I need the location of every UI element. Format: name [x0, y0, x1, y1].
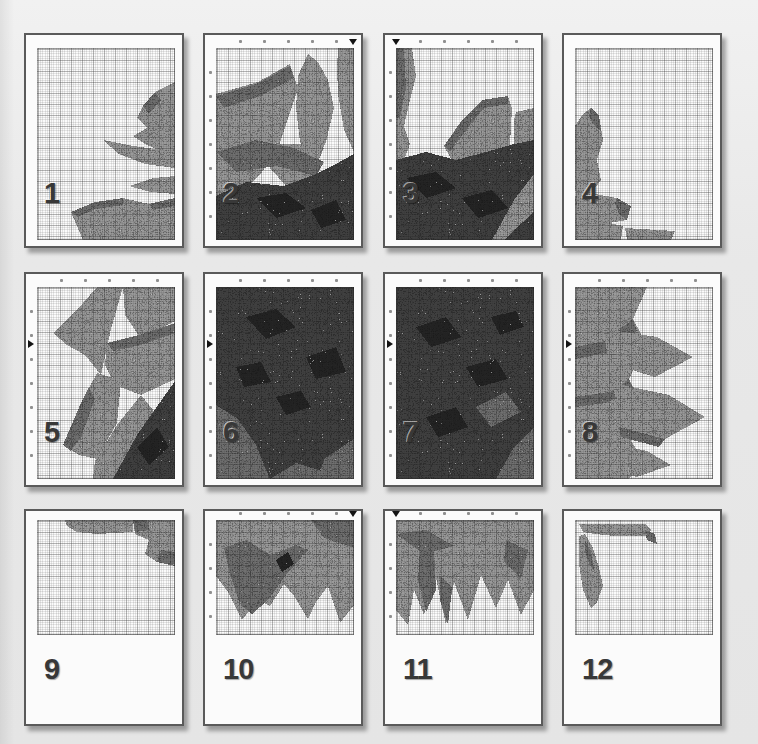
stitch-pattern-svg: [216, 287, 354, 479]
ruler-tick: [263, 512, 266, 515]
ruler-tick: [209, 71, 212, 74]
ruler-tick: [156, 279, 159, 282]
petal-dark-shape: [645, 530, 657, 544]
ruler-tick: [287, 279, 290, 282]
ruler-tick: [419, 40, 422, 43]
ruler-tick: [263, 40, 266, 43]
pattern-page-2: 2: [203, 33, 363, 248]
center-arrow-icon: [349, 511, 357, 517]
pattern-page-1: 1: [24, 33, 184, 248]
ruler-tick: [389, 406, 392, 409]
stitch-chart-area: [575, 287, 713, 479]
page-number: 9: [44, 655, 59, 684]
ruler-tick: [568, 406, 571, 409]
ruler-tick: [419, 279, 422, 282]
ruler-tick: [568, 430, 571, 433]
stitch-chart-area: [396, 48, 534, 240]
ruler-tick: [30, 358, 33, 361]
ruler-tick: [209, 615, 212, 618]
pattern-page-6: 6: [203, 272, 363, 487]
ruler-tick: [30, 406, 33, 409]
stitch-chart-area: [216, 48, 354, 240]
center-arrow-icon: [392, 511, 400, 517]
ruler-tick: [209, 215, 212, 218]
stitch-chart-area: [216, 520, 354, 635]
ruler-tick: [132, 279, 135, 282]
ruler-tick: [443, 279, 446, 282]
ruler-tick: [389, 167, 392, 170]
pattern-page-5: 5: [24, 272, 184, 487]
page-number: 6: [223, 418, 238, 447]
ruler-tick: [209, 543, 212, 546]
ruler-tick: [389, 143, 392, 146]
ruler-tick: [389, 310, 392, 313]
ruler-tick: [209, 143, 212, 146]
ruler-tick: [209, 382, 212, 385]
ruler-tick: [491, 279, 494, 282]
ruler-tick: [30, 334, 33, 337]
ruler-tick: [389, 334, 392, 337]
ruler-tick: [209, 310, 212, 313]
ruler-tick: [598, 279, 601, 282]
page-number: 11: [403, 655, 432, 684]
ruler-tick: [335, 512, 338, 515]
ruler-tick: [239, 512, 242, 515]
ruler-tick: [694, 279, 697, 282]
ruler-tick: [622, 279, 625, 282]
ruler-tick: [515, 40, 518, 43]
petal-shape: [129, 176, 175, 194]
ruler-tick: [389, 358, 392, 361]
ruler-tick: [515, 512, 518, 515]
ruler-tick: [209, 358, 212, 361]
pattern-page-9: 9: [24, 509, 184, 726]
stitch-pattern-svg: [396, 48, 534, 240]
ruler-tick: [419, 512, 422, 515]
center-arrow-icon: [207, 340, 213, 348]
ruler-tick: [209, 191, 212, 194]
stitch-chart-area: [37, 48, 175, 240]
page-number: 2: [223, 179, 238, 208]
stitch-chart-area: [575, 48, 713, 240]
ruler-tick: [491, 512, 494, 515]
ruler-tick: [30, 454, 33, 457]
ruler-tick: [209, 406, 212, 409]
page-number: 10: [223, 655, 253, 684]
ruler-tick: [30, 430, 33, 433]
stitch-chart-area: [396, 520, 534, 635]
stitch-pattern-svg: [575, 520, 713, 635]
ruler-tick: [209, 119, 212, 122]
pattern-page-4: 4: [562, 33, 722, 248]
stitch-pattern-svg: [575, 48, 713, 240]
ruler-tick: [239, 40, 242, 43]
ruler-tick: [209, 95, 212, 98]
center-arrow-icon: [387, 340, 393, 348]
page-number: 4: [582, 179, 597, 208]
ruler-tick: [491, 40, 494, 43]
center-arrow-icon: [566, 340, 572, 348]
stitch-chart-area: [396, 287, 534, 479]
ruler-tick: [335, 40, 338, 43]
page-number: 8: [582, 418, 597, 447]
ruler-tick: [467, 40, 470, 43]
ruler-tick: [389, 454, 392, 457]
ruler-tick: [670, 279, 673, 282]
petal-shape: [579, 534, 603, 608]
ruler-tick: [263, 279, 266, 282]
petal-shape: [579, 524, 651, 536]
page-number: 7: [403, 418, 418, 447]
stitch-pattern-svg: [37, 520, 175, 635]
ruler-tick: [568, 358, 571, 361]
ruler-tick: [30, 382, 33, 385]
ruler-tick: [239, 279, 242, 282]
center-arrow-icon: [349, 39, 357, 45]
pattern-sheet-canvas: 123456789101112: [0, 0, 758, 744]
ruler-tick: [311, 512, 314, 515]
stitch-chart-area: [37, 287, 175, 479]
ruler-tick: [389, 191, 392, 194]
ruler-tick: [108, 279, 111, 282]
pattern-page-3: 3: [383, 33, 543, 248]
ruler-tick: [389, 430, 392, 433]
ruler-tick: [568, 310, 571, 313]
ruler-tick: [209, 567, 212, 570]
ruler-tick: [389, 119, 392, 122]
